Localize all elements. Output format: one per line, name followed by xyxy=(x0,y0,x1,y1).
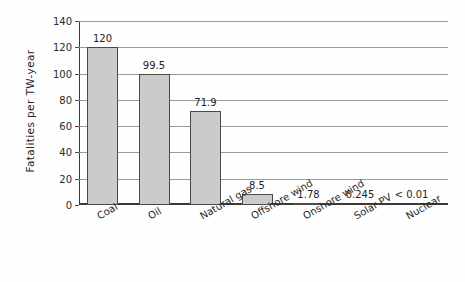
x-axis-category-label: Oil xyxy=(146,205,163,221)
bar-value-label: < 0.01 xyxy=(395,189,429,200)
y-axis-tick-label: 120 xyxy=(53,42,72,53)
bar-chart: Fatalities per TW-year 02040608010012014… xyxy=(0,0,465,282)
y-axis-tick xyxy=(75,21,79,22)
gridline xyxy=(79,152,448,153)
y-axis-tick-label: 140 xyxy=(53,16,72,27)
y-axis-tick xyxy=(75,47,79,48)
y-axis-tick-label: 60 xyxy=(59,121,72,132)
y-axis-tick xyxy=(75,152,79,153)
bar-value-label: 120 xyxy=(93,33,112,44)
bar xyxy=(87,47,118,205)
y-axis-tick-label: 100 xyxy=(53,68,72,79)
gridline xyxy=(79,21,448,22)
y-axis-tick-label: 0 xyxy=(66,200,72,211)
gridline xyxy=(79,47,448,48)
y-axis-tick-label: 20 xyxy=(59,173,72,184)
y-axis-tick-label: 80 xyxy=(59,94,72,105)
plot-area: 020406080100120140 12099.571.98.51.780.2… xyxy=(79,21,448,205)
bar xyxy=(139,74,170,205)
y-axis-tick xyxy=(75,74,79,75)
y-axis-tick-label: 40 xyxy=(59,147,72,158)
y-axis-line xyxy=(79,21,80,205)
gridline xyxy=(79,100,448,101)
bar-value-label: 71.9 xyxy=(194,97,216,108)
y-axis-tick xyxy=(75,179,79,180)
y-axis-tick xyxy=(75,100,79,101)
bar-value-label: 99.5 xyxy=(143,60,165,71)
gridline xyxy=(79,126,448,127)
bar xyxy=(190,111,221,205)
y-axis-title: Fatalities per TW-year xyxy=(24,21,36,201)
gridline xyxy=(79,74,448,75)
y-axis-tick xyxy=(75,126,79,127)
y-axis-tick xyxy=(75,205,79,206)
